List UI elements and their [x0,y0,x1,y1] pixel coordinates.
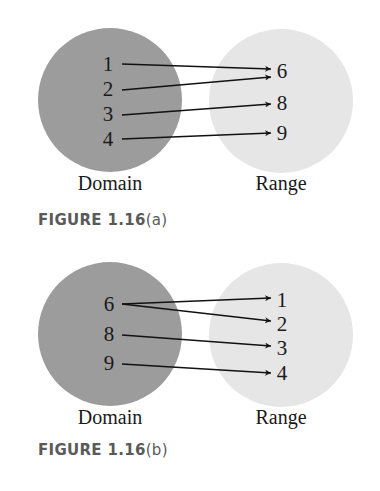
domain-element: 6 [104,292,115,316]
range-element: 4 [277,361,288,385]
mapping-diagram-b: 6 8 9 1 2 3 4 Domain Range [0,0,380,491]
figure-1-16b: 6 8 9 1 2 3 4 Domain Range FIGURE 1.16(b… [0,0,380,491]
range-element: 3 [277,336,288,360]
figure-caption: FIGURE 1.16(b) [38,441,168,459]
caption-prefix: FIGURE 1.16 [38,441,146,459]
domain-label: Domain [78,406,142,428]
domain-element: 9 [104,351,115,375]
range-element: 1 [277,288,288,312]
domain-element: 8 [104,322,115,346]
caption-suffix: (b) [146,441,168,459]
range-element: 2 [277,312,288,336]
range-label: Range [255,406,306,429]
